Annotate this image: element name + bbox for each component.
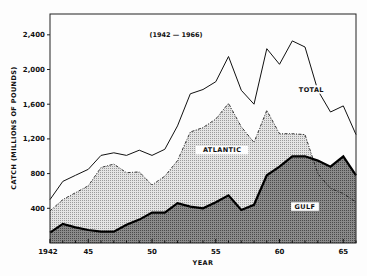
- y-tick-label: 2,000: [23, 66, 45, 74]
- plot-area: [50, 41, 356, 243]
- series-label-total: TOTAL: [299, 86, 324, 94]
- x-tick-label: 65: [338, 248, 348, 256]
- x-tick-label: 45: [83, 248, 93, 256]
- y-tick-label: 400: [30, 205, 45, 213]
- y-tick-label: 1,600: [23, 101, 45, 109]
- y-tick-label: 2,400: [23, 31, 45, 39]
- series-label-atlantic: ATLANTIC: [203, 146, 241, 154]
- x-tick-label: 1942: [38, 248, 58, 256]
- y-axis-label: CATCH (MILLIONS OF POUNDS): [10, 66, 18, 189]
- chart-title: (1942 — 1966): [149, 31, 202, 39]
- x-axis-label: YEAR: [192, 259, 214, 267]
- catch-chart: 4008001,2001,6002,0002,400 1942455055606…: [0, 0, 367, 276]
- y-tick-label: 1,200: [23, 135, 45, 143]
- x-tick-label: 60: [275, 248, 285, 256]
- y-tick-label: 800: [30, 170, 45, 178]
- y-axis: 4008001,2001,6002,0002,400: [23, 31, 50, 212]
- x-tick-label: 55: [211, 248, 221, 256]
- series-label-gulf: GULF: [295, 203, 316, 211]
- x-tick-label: 50: [147, 248, 157, 256]
